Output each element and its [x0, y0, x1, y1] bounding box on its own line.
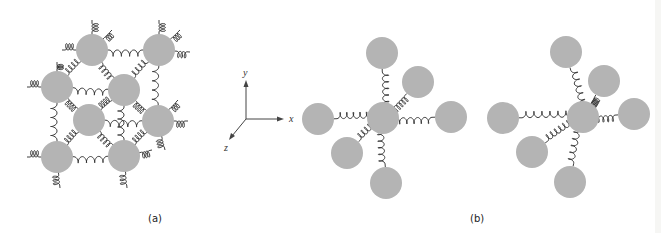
spring-icon: [173, 121, 188, 127]
atom-sphere: [402, 66, 434, 98]
axis-label-z: z: [223, 142, 228, 153]
atom-sphere: [366, 37, 398, 69]
atom-sphere: [554, 166, 586, 198]
spring-icon: [568, 127, 581, 167]
spring-icon: [156, 136, 165, 150]
spring-icon: [106, 50, 145, 56]
spring-icon: [51, 101, 57, 143]
spring-icon: [132, 60, 150, 79]
spring-icon: [152, 64, 159, 107]
axis-label-y: y: [242, 67, 248, 78]
atom-sphere: [618, 98, 650, 130]
atom-sphere: [142, 105, 174, 137]
spring-icon: [27, 151, 42, 157]
spring-icon: [53, 172, 61, 188]
spring-icon: [519, 111, 573, 118]
spring-icon: [139, 150, 152, 158]
spring-icon: [99, 61, 115, 79]
atom-sphere: [108, 74, 140, 106]
atom-sphere: [108, 140, 140, 172]
spring-icon: [170, 30, 182, 41]
panel-label-b: (b): [470, 213, 484, 224]
spring-icon: [92, 20, 98, 35]
atom-sphere: [367, 102, 399, 134]
spring-icon: [103, 30, 114, 41]
spring-icon: [27, 81, 42, 87]
coordinate-axes-icon: y x z: [223, 67, 294, 153]
atom-sphere: [370, 167, 402, 199]
spring-icon: [133, 130, 149, 146]
atom-sphere: [41, 71, 73, 103]
spring-icon: [174, 51, 190, 58]
atom-sphere: [516, 136, 548, 168]
figure-canvas: y x z: [0, 0, 661, 233]
atom-sphere: [487, 102, 519, 134]
panel-label-a: (a): [148, 213, 162, 224]
atom-sphere: [143, 34, 175, 66]
spring-icon: [393, 117, 435, 124]
spring-icon: [159, 20, 165, 35]
spring-icon: [65, 59, 82, 76]
axis-label-x: x: [288, 113, 294, 124]
spring-icon: [168, 100, 180, 112]
spring-icon: [98, 130, 115, 147]
atoms-layer: [41, 34, 650, 199]
spring-icon: [64, 130, 79, 146]
spring-icon: [120, 171, 128, 188]
atom-sphere: [41, 141, 73, 173]
atom-sphere: [550, 36, 582, 68]
spring-icon: [62, 44, 77, 50]
atom-sphere: [588, 65, 620, 97]
atom-sphere: [76, 34, 108, 66]
atom-sphere: [331, 137, 363, 169]
atom-sphere: [302, 103, 334, 135]
atom-sphere: [435, 101, 467, 133]
spring-icon: [71, 156, 110, 163]
atom-sphere: [73, 104, 105, 136]
atom-sphere: [567, 101, 599, 133]
spring-icon: [57, 62, 63, 72]
spring-icon: [71, 88, 110, 96]
